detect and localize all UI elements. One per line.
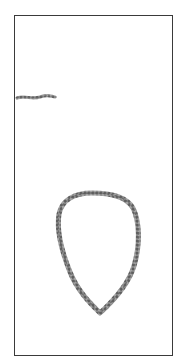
chain-fragment	[17, 95, 55, 98]
chain-loop	[58, 193, 138, 313]
chain-illustration	[0, 0, 185, 364]
